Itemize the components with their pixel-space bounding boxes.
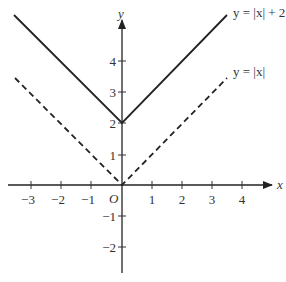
- y-tick-label: 2: [110, 116, 117, 131]
- y-tick-label: −2: [102, 240, 116, 255]
- x-tick-labels: −3 −2 −1 1 2 3 4: [21, 192, 246, 207]
- x-tick-label: 4: [239, 192, 246, 207]
- y-tick-label: 4: [110, 54, 117, 69]
- x-tick-label: −1: [81, 192, 95, 207]
- y-tick-label: 1: [110, 148, 117, 163]
- x-axis-label: x: [276, 177, 283, 192]
- y-tick-labels: 4 3 2 1 −1 −2: [102, 54, 116, 255]
- dashed-curve-label: y = |x|: [233, 64, 265, 79]
- y-tick-label: 3: [110, 85, 117, 100]
- x-tick-label: −3: [21, 192, 35, 207]
- x-tick-label: 3: [209, 192, 216, 207]
- curve-abs-x: [15, 78, 227, 185]
- y-axis-label: y: [116, 6, 124, 21]
- solid-curve-label: y = |x| + 2: [233, 5, 285, 20]
- x-tick-label: 1: [149, 192, 156, 207]
- curve-abs-x-plus-2: [14, 15, 227, 123]
- origin-label: O: [109, 191, 119, 206]
- y-tick-label: −1: [102, 209, 116, 224]
- x-tick-label: −2: [51, 192, 65, 207]
- x-tick-label: 2: [179, 192, 186, 207]
- graph: −3 −2 −1 1 2 3 4 4 3 2 1 −1 −2 O x y y =…: [0, 0, 286, 282]
